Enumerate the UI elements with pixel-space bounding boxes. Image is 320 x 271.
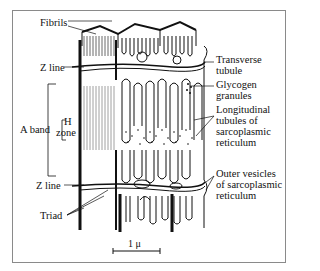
scale-bar-label: 1 μ <box>128 238 141 249</box>
label-longitudinal-2: tubules of <box>216 115 258 126</box>
label-outer-vesicles-1: Outer vesicles <box>216 168 276 179</box>
label-outer-vesicles-3: reticulum <box>216 190 256 201</box>
label-longitudinal-1: Longitudinal <box>216 104 270 115</box>
label-triad: Triad <box>40 210 62 221</box>
label-glycogen-1: Glycogen <box>216 79 257 90</box>
label-z-line-top: Z line <box>40 62 65 73</box>
label-longitudinal-3: sarcoplasmic <box>216 126 271 137</box>
label-h: H <box>64 116 72 127</box>
label-transverse-tubule-1: Transverse <box>216 54 262 65</box>
label-zone: zone <box>56 127 76 138</box>
label-fibrils: Fibrils <box>40 17 67 28</box>
label-longitudinal-4: reticulum <box>216 137 256 148</box>
label-a-band: A band <box>20 124 50 135</box>
label-outer-vesicles-2: of sarcoplasmic <box>216 179 282 190</box>
label-glycogen-2: granules <box>216 90 252 101</box>
label-transverse-tubule-2: tubule <box>216 65 242 76</box>
label-z-line-bottom: Z line <box>36 180 61 191</box>
